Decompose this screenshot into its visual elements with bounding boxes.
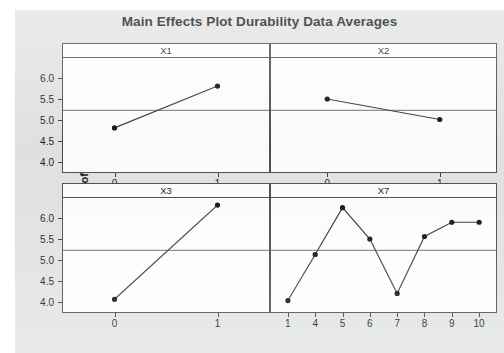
panel-title: X7 bbox=[378, 185, 390, 196]
panel-title: X3 bbox=[160, 185, 172, 196]
x-tick-label: 9 bbox=[449, 318, 455, 329]
y-tick-label: 5.0 bbox=[28, 254, 54, 265]
panel-title: X2 bbox=[378, 45, 390, 56]
series-line bbox=[327, 99, 440, 120]
series-plot bbox=[271, 58, 496, 171]
x-tick-label: 0 bbox=[112, 318, 118, 329]
y-tick-label: 5.5 bbox=[28, 233, 54, 244]
data-point bbox=[313, 252, 318, 257]
x-tick-mark bbox=[343, 313, 344, 317]
chart-canvas: Main Effects Plot Durability Data Averag… bbox=[15, 10, 504, 353]
data-point bbox=[477, 220, 482, 225]
y-tick-mark bbox=[58, 302, 62, 303]
y-tick-label: 4.5 bbox=[28, 275, 54, 286]
chart-figure: Main Effects Plot Durability Data Averag… bbox=[0, 0, 504, 353]
plot-area-x3 bbox=[62, 198, 270, 313]
x-tick-mark bbox=[115, 173, 116, 177]
y-tick-label: 5.0 bbox=[28, 114, 54, 125]
x-tick-mark bbox=[218, 313, 219, 317]
y-tick-mark bbox=[58, 162, 62, 163]
data-point bbox=[215, 203, 220, 208]
y-tick-label: 4.0 bbox=[28, 156, 54, 167]
plot-area-x7 bbox=[270, 198, 497, 313]
data-point bbox=[422, 234, 427, 239]
panel-title: X1 bbox=[160, 45, 172, 56]
data-point bbox=[395, 291, 400, 296]
panel-header-x1: X1 bbox=[62, 43, 270, 58]
y-tick-label: 4.0 bbox=[28, 296, 54, 307]
data-point bbox=[449, 220, 454, 225]
chart-title: Main Effects Plot Durability Data Averag… bbox=[15, 14, 504, 29]
x-tick-label: 4 bbox=[312, 318, 318, 329]
x-tick-mark bbox=[424, 313, 425, 317]
series-plot bbox=[63, 198, 269, 311]
x-tick-mark bbox=[370, 313, 371, 317]
x-tick-mark bbox=[479, 313, 480, 317]
x-tick-mark bbox=[452, 313, 453, 317]
x-tick-label: 5 bbox=[340, 318, 346, 329]
y-tick-mark bbox=[58, 120, 62, 121]
y-tick-mark bbox=[58, 141, 62, 142]
x-tick-mark bbox=[327, 173, 328, 177]
data-point bbox=[437, 117, 442, 122]
data-point bbox=[112, 297, 117, 302]
plot-area-x2 bbox=[270, 58, 497, 173]
y-tick-label: 6.0 bbox=[28, 212, 54, 223]
series-line bbox=[115, 86, 218, 128]
y-tick-mark bbox=[58, 239, 62, 240]
y-tick-mark bbox=[58, 99, 62, 100]
panel-header-x3: X3 bbox=[62, 183, 270, 198]
x-tick-mark bbox=[440, 173, 441, 177]
y-tick-label: 6.0 bbox=[28, 72, 54, 83]
y-tick-label: 4.5 bbox=[28, 135, 54, 146]
plot-area-x1 bbox=[62, 58, 270, 173]
data-point bbox=[112, 125, 117, 130]
data-point bbox=[215, 83, 220, 88]
data-point bbox=[367, 236, 372, 241]
x-tick-label: 1 bbox=[215, 318, 221, 329]
data-point bbox=[325, 96, 330, 101]
panel-header-x7: X7 bbox=[270, 183, 497, 198]
x-tick-mark bbox=[115, 313, 116, 317]
x-tick-label: 1 bbox=[285, 318, 291, 329]
x-tick-mark bbox=[288, 313, 289, 317]
y-tick-mark bbox=[58, 260, 62, 261]
y-tick-mark bbox=[58, 281, 62, 282]
x-tick-label: 7 bbox=[394, 318, 400, 329]
x-tick-label: 6 bbox=[367, 318, 373, 329]
y-tick-mark bbox=[58, 218, 62, 219]
x-tick-mark bbox=[397, 313, 398, 317]
x-tick-mark bbox=[218, 173, 219, 177]
panel-header-x2: X2 bbox=[270, 43, 497, 58]
series-plot bbox=[63, 58, 269, 171]
x-tick-mark bbox=[315, 313, 316, 317]
data-point bbox=[285, 298, 290, 303]
x-tick-label: 8 bbox=[422, 318, 428, 329]
series-line bbox=[115, 205, 218, 299]
y-tick-mark bbox=[58, 78, 62, 79]
x-tick-label: 10 bbox=[474, 318, 485, 329]
y-tick-label: 5.5 bbox=[28, 93, 54, 104]
data-point bbox=[340, 205, 345, 210]
series-plot bbox=[271, 198, 496, 311]
